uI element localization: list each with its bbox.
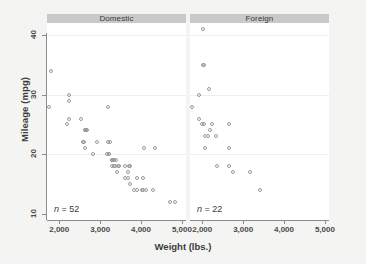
x-tick-mark	[182, 220, 183, 224]
data-point	[106, 105, 110, 109]
data-point	[227, 164, 231, 168]
data-point	[173, 200, 177, 204]
y-tick-label: 20	[29, 145, 38, 163]
data-point	[206, 134, 210, 138]
data-point	[128, 182, 132, 186]
gridline-y	[190, 95, 329, 96]
data-point	[79, 117, 83, 121]
x-tick-mark	[325, 220, 326, 224]
y-tick-label: 30	[29, 85, 38, 103]
data-point	[126, 170, 130, 174]
data-point	[210, 122, 214, 126]
data-point	[258, 188, 262, 192]
data-point	[67, 93, 71, 97]
data-point	[83, 146, 87, 150]
data-point	[47, 105, 51, 109]
y-tick-mark	[42, 214, 46, 215]
data-point	[82, 140, 86, 144]
y-tick-mark	[42, 95, 46, 96]
x-tick-mark	[284, 220, 285, 224]
y-tick-label: 10	[29, 205, 38, 223]
n-symbol: n	[54, 204, 59, 214]
data-point	[135, 176, 139, 180]
data-point	[248, 170, 252, 174]
gridline-y	[47, 154, 186, 155]
data-point	[168, 200, 172, 204]
x-tick-mark	[100, 220, 101, 224]
x-axis-title: Weight (lbs.)	[0, 241, 366, 252]
n-symbol: n	[197, 204, 202, 214]
x-tick-label: 4,000	[121, 225, 161, 234]
data-point	[95, 140, 99, 144]
data-point	[201, 27, 205, 31]
sample-size-annotation-foreign: n = 22	[197, 204, 222, 214]
data-point	[108, 140, 112, 144]
data-point	[190, 105, 194, 109]
x-axis-spine-foreign	[190, 220, 329, 221]
data-point	[117, 164, 121, 168]
x-axis-spine-domestic	[47, 220, 186, 221]
data-point	[151, 188, 155, 192]
y-tick-label: 40	[29, 25, 38, 43]
data-point	[49, 69, 53, 73]
data-point	[115, 170, 119, 174]
plot-panel-foreign: n = 22	[190, 23, 329, 220]
sample-size-annotation-domestic: n = 52	[54, 204, 79, 214]
panel-header-foreign: Foreign	[190, 14, 329, 23]
x-tick-label: 2,000	[39, 225, 79, 234]
data-point	[153, 146, 157, 150]
data-point	[197, 117, 201, 121]
panel-header-domestic: Domestic	[47, 14, 186, 23]
n-value: = 52	[62, 204, 80, 214]
data-point	[128, 164, 132, 168]
data-point	[142, 146, 146, 150]
x-tick-mark	[243, 220, 244, 224]
data-point	[141, 176, 145, 180]
data-point	[202, 63, 206, 67]
x-tick-label: 3,000	[80, 225, 120, 234]
x-tick-mark	[59, 220, 60, 224]
data-point	[65, 122, 69, 126]
data-point	[135, 188, 139, 192]
data-point	[144, 188, 148, 192]
x-tick-label: 5,000	[305, 225, 345, 234]
data-point	[215, 164, 219, 168]
data-point	[67, 99, 71, 103]
data-point	[126, 176, 130, 180]
data-point	[214, 134, 218, 138]
gridline-y	[47, 35, 186, 36]
gridline-y	[190, 35, 329, 36]
data-point	[231, 170, 235, 174]
x-tick-label: 2,000	[182, 225, 222, 234]
y-tick-mark	[42, 154, 46, 155]
scatter-plot-figure: Mileage (mpg) Domestic Foreign n = 52 n …	[0, 0, 366, 264]
data-point	[208, 128, 212, 132]
plot-panel-domestic: n = 52	[47, 23, 186, 220]
x-tick-mark	[202, 220, 203, 224]
data-point	[202, 122, 206, 126]
n-value: = 22	[205, 204, 223, 214]
data-point	[197, 93, 201, 97]
data-point	[207, 87, 211, 91]
gridline-y	[190, 154, 329, 155]
data-point	[91, 152, 95, 156]
data-point	[67, 117, 71, 121]
x-tick-mark	[141, 220, 142, 224]
data-point	[203, 146, 207, 150]
y-tick-mark	[42, 35, 46, 36]
data-point	[227, 122, 231, 126]
x-tick-label: 4,000	[264, 225, 304, 234]
x-tick-label: 3,000	[223, 225, 263, 234]
data-point	[227, 146, 231, 150]
